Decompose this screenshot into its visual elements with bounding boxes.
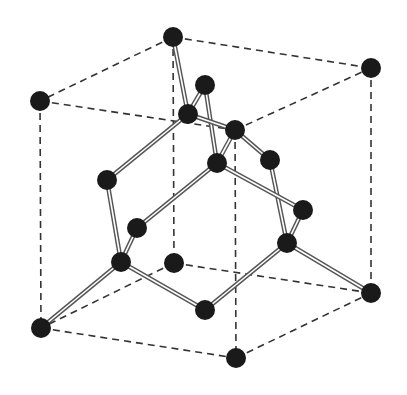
atom <box>163 27 183 47</box>
cell-edge <box>235 130 236 358</box>
atoms <box>30 27 381 368</box>
atom <box>225 120 245 140</box>
bond-inner <box>107 180 121 262</box>
atom <box>277 233 297 253</box>
diamond-cubic-diagram <box>0 0 407 395</box>
atom <box>293 200 313 220</box>
bond-inner <box>217 163 303 210</box>
cell-edge <box>173 37 371 68</box>
bond-inner <box>137 163 217 228</box>
atom <box>207 153 227 173</box>
atom <box>361 58 381 78</box>
atom <box>127 218 147 238</box>
bond-inner <box>287 243 371 293</box>
bond-inner <box>205 243 287 310</box>
atom <box>30 91 50 111</box>
atom <box>361 283 381 303</box>
bond-inner <box>107 114 188 180</box>
cell-edge <box>235 68 371 130</box>
atom <box>97 170 117 190</box>
bond-inner <box>173 37 188 114</box>
cell-edge <box>40 101 41 328</box>
atom <box>31 318 51 338</box>
atom <box>226 348 246 368</box>
atom <box>195 300 215 320</box>
atom <box>195 75 215 95</box>
cell-edge <box>173 37 174 263</box>
cell-edge <box>41 328 236 358</box>
atom <box>164 253 184 273</box>
atom <box>260 150 280 170</box>
crystal-lattice-svg <box>0 0 407 395</box>
atom <box>178 104 198 124</box>
cell-edge <box>40 37 173 101</box>
atom <box>111 252 131 272</box>
cell-edge <box>236 293 371 358</box>
cell-edge <box>40 101 235 130</box>
